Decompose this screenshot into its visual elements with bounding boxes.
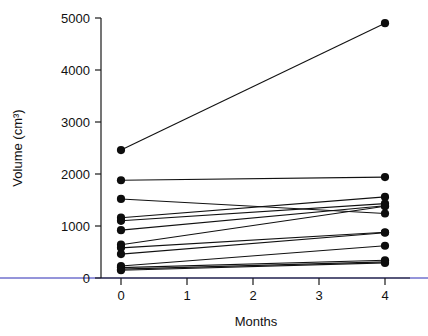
data-point xyxy=(117,217,125,225)
data-point xyxy=(117,250,125,258)
x-tick-label-4: 4 xyxy=(381,288,388,303)
data-point xyxy=(117,146,125,154)
x-tick-label-1: 1 xyxy=(183,288,190,303)
y-tick-label-1000: 1000 xyxy=(61,219,90,234)
data-point xyxy=(117,195,125,203)
data-point xyxy=(381,259,389,267)
data-point xyxy=(117,176,125,184)
data-point xyxy=(381,229,389,237)
x-tick-label-3: 3 xyxy=(315,288,322,303)
y-tick-label-4000: 4000 xyxy=(61,63,90,78)
y-tick-label-5000: 5000 xyxy=(61,11,90,26)
data-point xyxy=(381,19,389,27)
y-tick-label-2000: 2000 xyxy=(61,167,90,182)
y-axis-title: Volume (cm³) xyxy=(10,109,25,186)
x-tick-label-0: 0 xyxy=(117,288,124,303)
data-point xyxy=(381,202,389,210)
y-tick-label-3000: 3000 xyxy=(61,115,90,130)
x-axis-title: Months xyxy=(235,314,278,329)
chart-container: 0 1000 2000 3000 4000 5000 0 1 2 3 4 Mon… xyxy=(0,0,428,336)
data-point xyxy=(381,173,389,181)
y-tick-label-0: 0 xyxy=(83,271,90,286)
x-tick-label-2: 2 xyxy=(249,288,256,303)
data-point xyxy=(117,266,125,274)
data-point xyxy=(117,226,125,234)
data-point xyxy=(381,242,389,250)
data-point xyxy=(381,209,389,217)
spaghetti-plot: 0 1000 2000 3000 4000 5000 0 1 2 3 4 Mon… xyxy=(0,0,428,336)
